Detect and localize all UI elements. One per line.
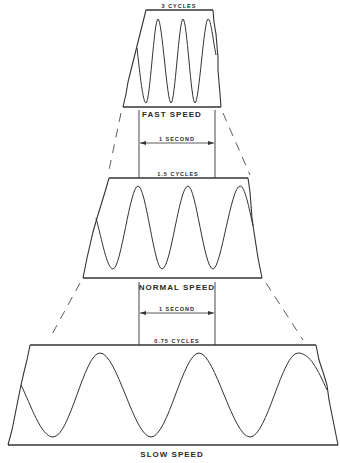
dashed-connector-right [223,113,250,175]
slow-speed-panel: 0.75 CYCLES SLOW SPEED [8,338,338,459]
interval-marker-top: 1 SECOND [139,110,215,178]
slow-sine-wave [21,353,327,437]
fast-cycles-label: 3 CYCLES [162,3,197,9]
fast-speed-label: FAST SPEED [142,110,202,119]
dashed-connector-left [50,283,80,338]
slow-cycles-label: 0.75 CYCLES [154,338,200,344]
fast-speed-panel: 3 CYCLES FAST SPEED [123,3,221,119]
normal-left-edge [83,178,109,278]
arrowhead-left-icon [140,311,146,315]
interval-label: 1 SECOND [159,136,195,142]
slow-right-edge [316,345,338,445]
normal-cycles-label: 1.5 CYCLES [157,171,198,177]
fast-sine-wave [137,19,216,103]
arrowhead-right-icon [208,141,214,145]
dashed-connector-right [266,283,303,340]
normal-speed-label: NORMAL SPEED [139,283,215,292]
slow-speed-label: SLOW SPEED [140,450,203,459]
fast-right-edge [213,10,221,107]
normal-speed-panel: 1.5 CYCLES NORMAL SPEED [83,171,262,292]
dashed-connector-left [108,113,121,175]
speed-comparison-diagram: 3 CYCLES FAST SPEED 1 SECOND 1.5 CYCLES … [0,0,340,463]
arrowhead-left-icon [140,141,146,145]
normal-right-edge [248,178,262,278]
normal-sine-wave [96,186,253,269]
arrowhead-right-icon [208,311,214,315]
slow-left-edge [8,345,30,445]
interval-label: 1 SECOND [159,306,195,312]
